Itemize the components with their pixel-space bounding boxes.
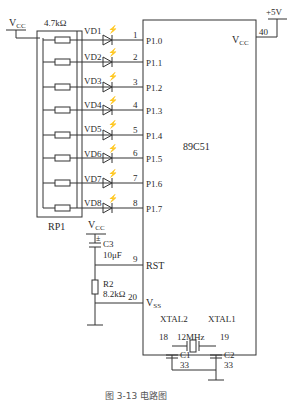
- svg-text:R2: R2: [103, 279, 114, 289]
- led-row-8: VD88P1.7⚡: [43, 193, 163, 214]
- vcc-pin-number: 40: [259, 27, 269, 37]
- plus5v-label: +5V: [266, 7, 283, 17]
- reset-vcc-label: VCC: [88, 219, 105, 232]
- c3-value: 10μF: [103, 250, 122, 260]
- svg-text:⚡: ⚡: [108, 119, 118, 129]
- led-row-4: VD44P1.3⚡: [43, 95, 163, 116]
- led-rows: VD11P1.0⚡ VD22P1.1⚡ VD33P1.2⚡ VD44P1.3⚡ …: [43, 24, 163, 214]
- svg-text:1: 1: [133, 30, 138, 40]
- svg-text:P1.2: P1.2: [146, 83, 162, 93]
- svg-text:⚡: ⚡: [108, 71, 118, 81]
- svg-text:6: 6: [133, 148, 138, 158]
- led-row-2: VD22P1.1⚡: [43, 47, 162, 68]
- svg-text:⚡: ⚡: [108, 47, 118, 57]
- led-row-3: VD33P1.2⚡: [43, 71, 162, 93]
- svg-text:VD4: VD4: [84, 100, 102, 110]
- svg-text:XTAL2: XTAL2: [160, 314, 188, 324]
- svg-text:⚡: ⚡: [108, 95, 118, 105]
- svg-text:VD2: VD2: [84, 52, 102, 62]
- svg-text:VD7: VD7: [84, 174, 102, 184]
- svg-text:8.2kΩ: 8.2kΩ: [103, 289, 126, 299]
- svg-text:P1.0: P1.0: [146, 36, 163, 46]
- led-row-6: VD66P1.5⚡: [43, 143, 163, 164]
- rp1-name: RP1: [48, 221, 65, 232]
- svg-text:4: 4: [133, 100, 138, 110]
- svg-text:⚡: ⚡: [108, 24, 118, 34]
- svg-text:3: 3: [133, 77, 138, 87]
- svg-text:33: 33: [180, 360, 190, 370]
- svg-text:33: 33: [224, 360, 234, 370]
- svg-text:⚡: ⚡: [108, 168, 118, 178]
- c3-name: C3: [103, 239, 114, 249]
- svg-text:⚡: ⚡: [108, 193, 118, 203]
- svg-text:VD8: VD8: [84, 198, 102, 208]
- r2-resistor: [92, 280, 98, 294]
- vcc-top-wire: [16, 30, 40, 38]
- svg-text:XTAL1: XTAL1: [208, 314, 236, 324]
- chip-name: 89C51: [183, 141, 210, 152]
- vcc-top-label: VCC: [9, 17, 26, 30]
- svg-text:VD5: VD5: [84, 124, 102, 134]
- circuit-diagram: 89C51 VCC 40 +5V VCC 4.7kΩ RP1 VD11P1.0⚡…: [0, 0, 295, 404]
- svg-text:19: 19: [220, 332, 230, 342]
- led-row-7: VD77P1.6⚡: [43, 168, 163, 189]
- svg-text:7: 7: [133, 173, 138, 183]
- svg-text:±: ±: [96, 234, 101, 243]
- svg-text:P1.1: P1.1: [146, 58, 162, 68]
- svg-text:P1.6: P1.6: [146, 179, 163, 189]
- chip-vcc-label: VCC: [232, 34, 249, 47]
- svg-text:5: 5: [133, 125, 138, 135]
- svg-text:RST: RST: [146, 260, 164, 271]
- svg-text:VD1: VD1: [84, 26, 102, 36]
- svg-text:VSS: VSS: [146, 297, 161, 310]
- svg-text:VD3: VD3: [84, 76, 102, 86]
- svg-text:C2: C2: [224, 350, 235, 360]
- svg-text:P1.5: P1.5: [146, 154, 163, 164]
- rp1-value: 4.7kΩ: [44, 18, 67, 28]
- figure-caption: 图 3-13 电路图: [105, 390, 167, 401]
- svg-text:P1.7: P1.7: [146, 204, 163, 214]
- svg-text:P1.3: P1.3: [146, 106, 163, 116]
- svg-text:9: 9: [133, 254, 138, 264]
- svg-text:P1.4: P1.4: [146, 131, 163, 141]
- svg-text:2: 2: [133, 52, 138, 62]
- svg-text:18: 18: [159, 332, 169, 342]
- svg-text:20: 20: [128, 292, 138, 302]
- led-row-5: VD55P1.4⚡: [43, 119, 163, 141]
- svg-text:VD6: VD6: [84, 149, 102, 159]
- svg-text:C1: C1: [180, 350, 191, 360]
- svg-text:⚡: ⚡: [108, 143, 118, 153]
- svg-text:8: 8: [133, 198, 138, 208]
